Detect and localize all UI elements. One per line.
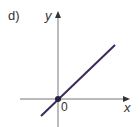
y-arrow-icon: [55, 11, 61, 18]
x-axis: [20, 96, 130, 102]
graph: [0, 0, 140, 127]
y-axis: [55, 11, 61, 127]
origin-point: [55, 96, 61, 102]
x-arrow-icon: [123, 96, 130, 102]
plot-line: [41, 45, 115, 116]
